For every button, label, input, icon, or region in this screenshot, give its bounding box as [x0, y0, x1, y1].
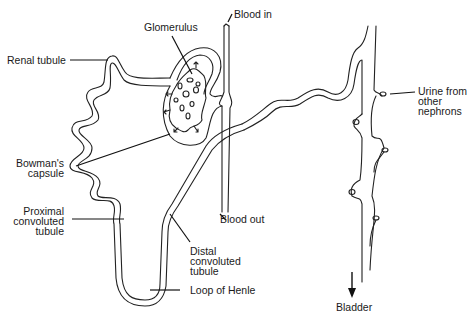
bladder-arrow-icon — [348, 272, 356, 298]
label-distal-convoluted-tubule: Distal convoluted tubule — [190, 246, 241, 276]
label-renal-tubule: Renal tubule — [7, 55, 66, 65]
label-loop-of-henle: Loop of Henle — [190, 285, 255, 295]
label-blood-out: Blood out — [220, 214, 264, 224]
glomerulus — [164, 62, 206, 132]
label-bladder: Bladder — [336, 302, 372, 312]
collecting-duct — [349, 26, 388, 282]
blood-vessel — [219, 24, 231, 212]
label-urine-line-3: nephrons — [418, 106, 467, 116]
leader-lines — [70, 14, 415, 290]
label-glomerulus: Glomerulus — [144, 22, 198, 32]
label-proximal-convoluted-tubule: Proximal convoluted tubule — [6, 206, 64, 236]
label-distal-line-3: tubule — [190, 266, 241, 276]
distal-tubule — [242, 26, 368, 130]
bowmans-capsule — [163, 48, 222, 146]
label-bowmans-line-2: capsule — [14, 168, 64, 178]
label-proximal-line-3: tubule — [6, 226, 64, 236]
label-blood-in: Blood in — [234, 9, 272, 19]
label-bowmans-capsule: Bowman's capsule — [14, 158, 64, 178]
label-urine-from-other-nephrons: Urine from other nephrons — [418, 86, 467, 116]
